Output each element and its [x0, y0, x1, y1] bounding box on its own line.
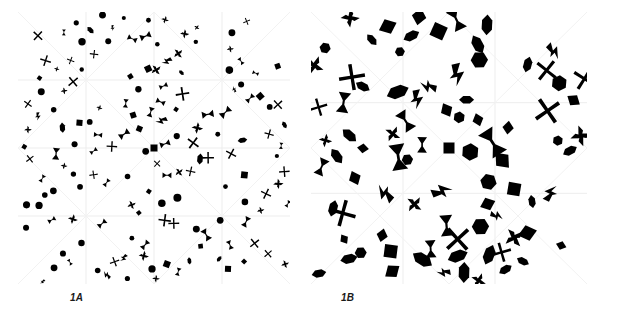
glyph-diamond: [377, 229, 388, 242]
glyph-disc: [135, 86, 141, 92]
glyph-center-square: [444, 143, 455, 154]
glyph-pinwheel: [471, 273, 485, 284]
glyph-diamond: [379, 19, 397, 34]
glyph-bowtie: [252, 70, 259, 76]
glyph-pinwheel: [341, 12, 360, 28]
glyph-square: [429, 22, 447, 40]
glyph-bolt: [104, 271, 111, 279]
glyph-lozenge: [471, 36, 484, 54]
glyph-bowtie: [226, 240, 234, 250]
glyph-square: [136, 210, 142, 216]
glyph-bolt: [379, 184, 394, 203]
glyph-bowtie: [127, 34, 138, 43]
glyph-bowtie: [245, 93, 255, 103]
glyph-x-cross: [446, 227, 469, 250]
glyph-bolt: [35, 112, 41, 120]
glyph-square: [173, 107, 179, 113]
glyph-bolt: [110, 25, 114, 31]
glyph-hexagon: [320, 43, 331, 54]
panel-1b: 1B: [311, 12, 587, 284]
glyph-square: [507, 182, 522, 197]
glyph-lozenge: [179, 70, 184, 75]
glyph-lozenge: [343, 130, 356, 142]
glyph-lozenge: [282, 121, 287, 128]
glyph-x-cross: [279, 166, 290, 177]
glyph-lozenge: [482, 14, 493, 35]
glyph-disc: [142, 148, 149, 155]
glyph-x-cross: [226, 148, 237, 159]
glyph-square: [256, 92, 265, 101]
glyph-lozenge: [517, 257, 529, 266]
glyph-pinwheel: [24, 126, 32, 134]
glyph-bowtie: [313, 157, 329, 176]
glyph-x-cross: [90, 50, 99, 59]
glyph-lozenge: [197, 154, 203, 165]
glyph-lozenge: [60, 123, 65, 133]
glyph-disc: [158, 200, 166, 208]
glyph-bowtie: [200, 228, 212, 241]
glyph-diamond: [518, 225, 537, 241]
glyph-pinwheel: [152, 275, 160, 283]
glyph-bowtie: [47, 216, 56, 224]
glyph-disc: [74, 20, 79, 25]
glyph-diamond: [357, 143, 369, 153]
glyph-center-square: [151, 145, 158, 152]
glyph-disc: [105, 38, 111, 44]
glyph-disc: [78, 38, 85, 45]
glyph-disc: [42, 192, 48, 198]
glyph-disc: [87, 119, 93, 125]
glyph-square: [163, 260, 171, 268]
glyph-disc: [80, 67, 84, 71]
glyph-disc: [173, 194, 181, 202]
glyph-pinwheel: [257, 207, 264, 214]
glyph-disc: [60, 251, 66, 257]
glyph-x-cross: [250, 239, 260, 249]
glyph-bowtie: [202, 110, 215, 119]
glyph-bowtie: [94, 132, 103, 138]
glyph-diamond: [480, 198, 495, 210]
glyph-bowtie: [62, 29, 66, 35]
glyph-bowtie: [159, 82, 169, 90]
glyph-diamond: [412, 12, 426, 25]
glyph-lozenge: [387, 85, 409, 100]
glyph-x-cross: [168, 218, 179, 229]
glyph-bowtie: [155, 98, 165, 107]
glyph-disc: [50, 187, 57, 194]
glyph-lozenge: [404, 30, 420, 41]
glyph-diamond: [567, 95, 579, 105]
glyph-lozenge: [563, 146, 577, 156]
glyph-bowtie: [97, 218, 108, 228]
glyph-bolt: [420, 80, 437, 93]
pattern-plot-1b: [311, 12, 587, 284]
glyph-square: [198, 244, 203, 249]
glyph-bowtie: [123, 99, 129, 108]
glyph-bowtie: [102, 178, 110, 187]
glyph-disc: [174, 133, 180, 139]
glyph-x-cross: [68, 77, 78, 87]
glyph-x-cross: [154, 160, 161, 167]
glyph-disc: [23, 201, 30, 208]
glyph-pinwheel: [139, 251, 149, 261]
glyph-disc: [125, 174, 131, 180]
glyph-x-cross: [535, 98, 560, 123]
glyph-pinwheel: [385, 126, 400, 141]
glyph-pinwheel: [54, 66, 60, 72]
glyph-pinwheel: [61, 87, 68, 94]
glyph-lozenge: [328, 200, 338, 216]
glyph-bolt: [161, 57, 172, 64]
glyph-square: [274, 63, 281, 70]
glyph-bowtie: [175, 267, 182, 276]
glyph-disc: [238, 81, 244, 87]
glyph-bolt: [490, 211, 503, 221]
glyph-square: [225, 266, 231, 272]
glyph-bolt: [40, 279, 46, 283]
glyph-pinwheel: [506, 229, 523, 246]
glyph-disc: [129, 236, 134, 241]
glyph-square: [383, 244, 397, 258]
glyph-disc: [229, 29, 236, 36]
pattern-plot-1a: [18, 12, 290, 284]
glyph-disc: [51, 264, 58, 271]
glyph-bolt: [450, 63, 465, 86]
glyph-pinwheel: [192, 122, 204, 134]
glyph-bowtie: [241, 216, 251, 228]
